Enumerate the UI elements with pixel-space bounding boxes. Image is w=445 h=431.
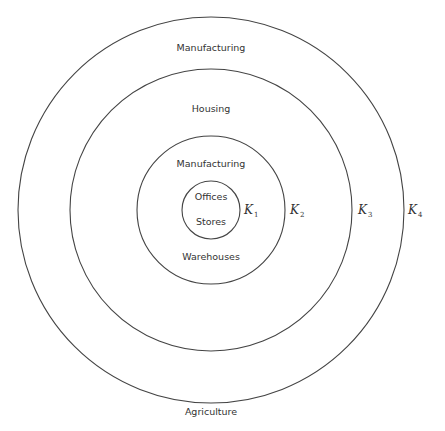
ring-k1 [182,181,240,239]
ring-label-k1: K1 [243,203,258,219]
zone-label-offices: Offices [195,191,228,202]
ring-label-k2: K2 [289,203,304,219]
zone-label-stores: Stores [196,216,226,227]
zone-label-warehouses: Warehouses [182,251,240,262]
ring-label-k4: K4 [407,203,423,219]
zone-label-inner-manufacturing: Manufacturing [177,158,246,169]
ring-label-k3: K3 [357,203,372,219]
concentric-zone-diagram: Offices Stores Manufacturing Warehouses … [0,0,445,431]
zone-label-housing: Housing [192,103,231,114]
zone-label-agriculture: Agriculture [185,406,237,417]
ring-k4 [18,17,404,403]
zone-label-outer-manufacturing: Manufacturing [177,42,246,53]
